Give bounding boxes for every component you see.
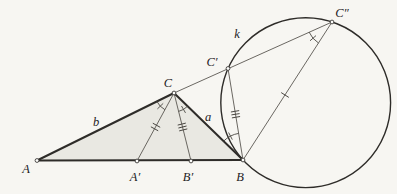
- label-side-b: b: [93, 115, 99, 129]
- label-side-a: a: [205, 110, 211, 124]
- label-point-c: C: [164, 76, 173, 90]
- label-point-c-double-prime: C″: [335, 6, 349, 20]
- point-a-prime: [135, 159, 139, 163]
- point-c-prime: [226, 67, 230, 71]
- label-point-b: B: [236, 170, 244, 184]
- label-point-a-prime: A′: [129, 170, 141, 184]
- label-point-b-prime: B′: [183, 170, 194, 184]
- figure-geometry-construction: A A′ B′ B C C′ C″ a b k: [0, 0, 397, 194]
- label-circle-k: k: [234, 27, 240, 41]
- point-c: [172, 91, 176, 95]
- point-c-double-prime: [330, 20, 334, 24]
- point-b: [241, 158, 245, 162]
- point-a: [35, 159, 39, 163]
- label-point-c-prime: C′: [206, 55, 217, 69]
- label-point-a: A: [21, 162, 30, 176]
- side-ab: [37, 160, 243, 161]
- page-background: [0, 0, 397, 194]
- point-b-prime: [189, 159, 193, 163]
